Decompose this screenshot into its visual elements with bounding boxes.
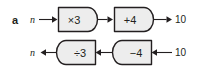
machine-subtract-4: −4 [113, 41, 152, 65]
figure-container: a n ×3 +4 10 n [0, 0, 197, 67]
machine-multiply-by-3: ×3 [59, 8, 98, 32]
machine-multiply-by-3-label: ×3 [68, 14, 81, 26]
bottom-row-input-label: 10 [175, 47, 187, 58]
machine-add-4: +4 [115, 8, 154, 32]
arrow-multiply-to-add [98, 16, 113, 22]
bottom-row-output-label: n [30, 47, 35, 58]
top-row-output-label: 10 [175, 14, 187, 25]
machine-divide-by-3: ÷3 [57, 41, 96, 65]
part-label-a: a [12, 14, 19, 26]
top-row-input-label: n [30, 14, 35, 25]
arrow-add-to-output [154, 16, 172, 22]
arrow-n-to-multiply [39, 16, 58, 22]
machine-subtract-4-label: −4 [130, 47, 143, 59]
arrow-input-to-subtract [152, 49, 173, 55]
machine-divide-by-3-label: ÷3 [74, 47, 86, 59]
function-machine-diagram: a n ×3 +4 10 n [0, 0, 197, 67]
machine-add-4-label: +4 [124, 14, 137, 26]
arrow-subtract-to-divide [96, 49, 114, 55]
